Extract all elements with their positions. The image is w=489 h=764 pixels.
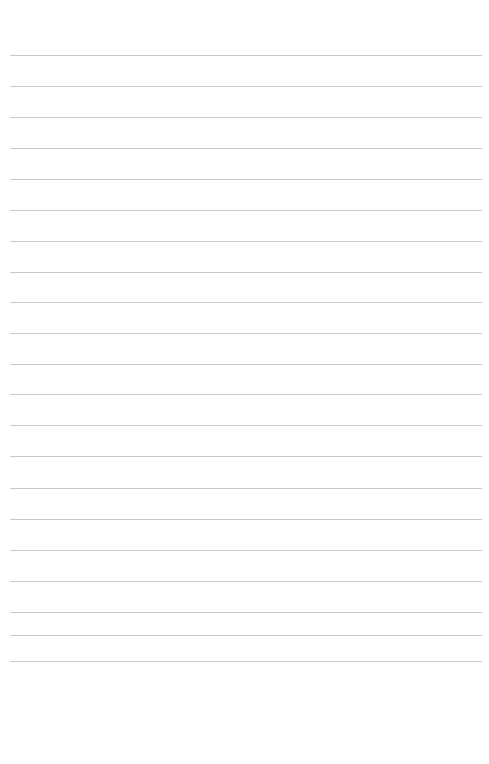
ruled-line bbox=[10, 86, 482, 87]
ruled-line bbox=[10, 117, 482, 118]
ruled-line bbox=[10, 550, 482, 551]
ruled-line bbox=[10, 364, 482, 365]
ruled-line bbox=[10, 333, 482, 334]
ruled-line bbox=[10, 241, 482, 242]
ruled-line bbox=[10, 148, 482, 149]
ruled-line bbox=[10, 272, 482, 273]
lined-paper-page bbox=[0, 0, 489, 764]
ruled-line bbox=[10, 55, 482, 56]
ruled-line bbox=[10, 394, 482, 395]
ruled-line bbox=[10, 519, 482, 520]
ruled-line bbox=[10, 488, 482, 489]
ruled-line bbox=[10, 302, 482, 303]
ruled-line bbox=[10, 179, 482, 180]
ruled-line bbox=[10, 425, 482, 426]
ruled-line bbox=[10, 661, 482, 662]
ruled-line bbox=[10, 210, 482, 211]
ruled-line bbox=[10, 581, 482, 582]
ruled-line bbox=[10, 612, 482, 613]
ruled-line bbox=[10, 456, 482, 457]
ruled-line bbox=[10, 635, 482, 636]
